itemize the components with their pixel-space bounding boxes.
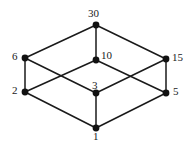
node-label-30: 30: [88, 8, 99, 19]
node-15[interactable]: [163, 56, 170, 63]
node-6[interactable]: [22, 55, 29, 62]
node-label-15: 15: [172, 52, 183, 63]
node-label-6: 6: [12, 51, 18, 62]
hasse-diagram-canvas: [0, 0, 194, 147]
node-2[interactable]: [22, 89, 29, 96]
node-label-2: 2: [12, 85, 18, 96]
node-label-10: 10: [101, 50, 112, 61]
node-label-5: 5: [173, 86, 179, 97]
edge-layer: [25, 25, 166, 128]
edge-30-6: [25, 25, 96, 58]
edge-2-1: [25, 92, 96, 128]
node-label-3: 3: [92, 80, 98, 91]
node-5[interactable]: [163, 90, 170, 97]
node-10[interactable]: [93, 57, 100, 64]
edge-5-1: [96, 93, 166, 128]
node-label-1: 1: [93, 131, 99, 142]
node-30[interactable]: [93, 22, 100, 29]
hasse-diagram: 30610152351: [0, 0, 194, 147]
